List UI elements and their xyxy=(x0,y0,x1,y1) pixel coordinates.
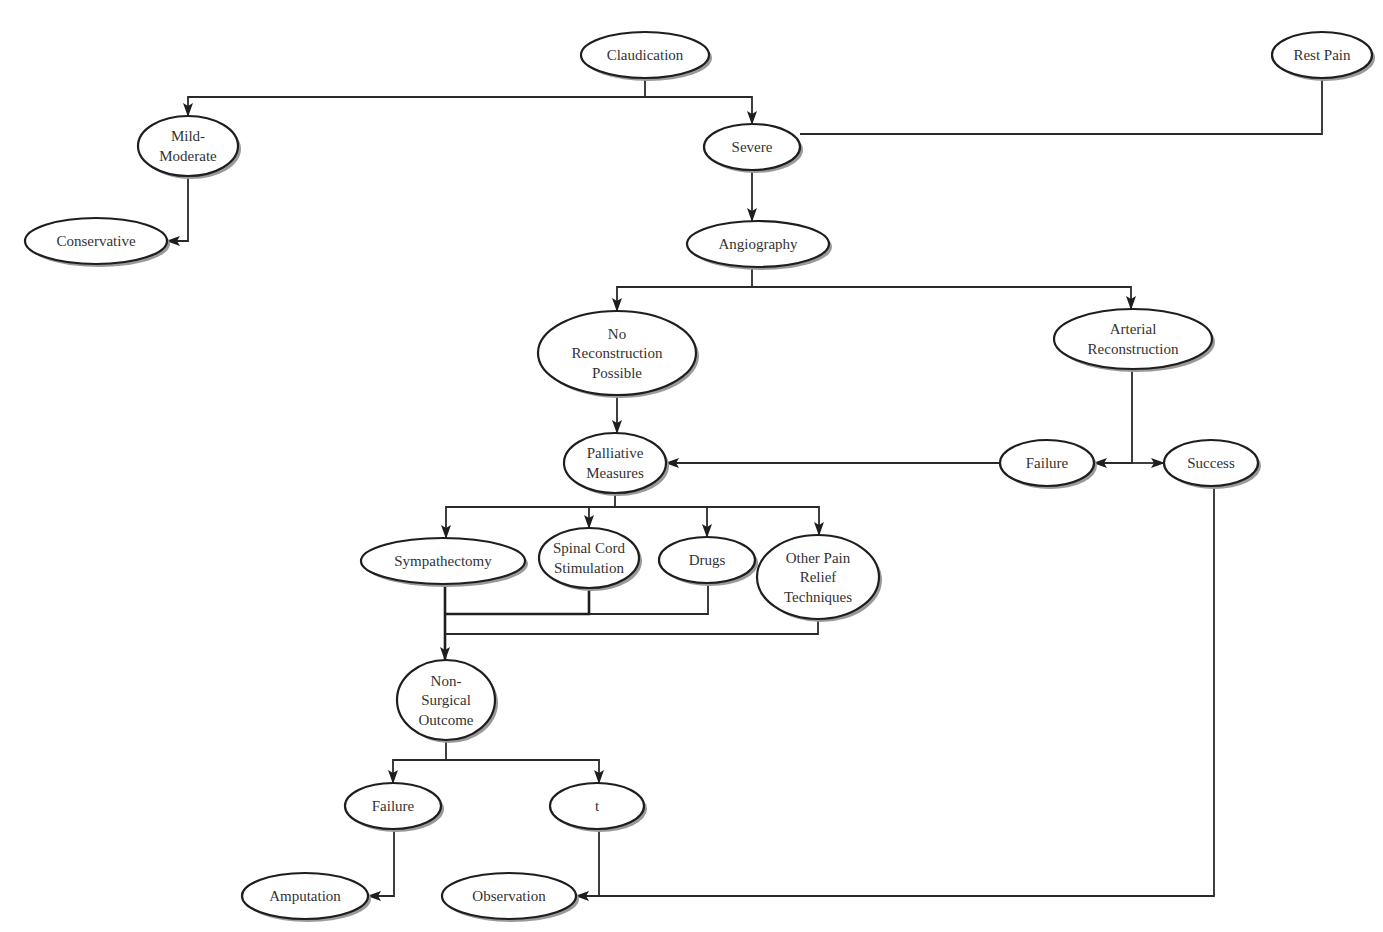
node-success: Success xyxy=(1164,440,1261,489)
node-severe: Severe xyxy=(704,124,803,173)
node-label: Techniques xyxy=(784,589,852,605)
node-label: Conservative xyxy=(56,233,135,249)
node-label: Sympathectomy xyxy=(394,553,492,569)
node-sympathectomy: Sympathectomy xyxy=(361,538,528,587)
node-amputation: Amputation xyxy=(242,873,371,922)
node-ellipse xyxy=(539,528,639,588)
node-label: Moderate xyxy=(159,148,217,164)
node-label: Angiography xyxy=(718,236,798,252)
node-mild-moderate: Mild-Moderate xyxy=(138,116,241,179)
edge-angiography-to-arterial-reconstruction xyxy=(752,287,1131,309)
edge-claudication-to-mild-moderate xyxy=(188,78,645,116)
node-label: Relief xyxy=(800,569,837,585)
node-label: Reconstruction xyxy=(1088,341,1179,357)
nodes-layer: ClaudicationRest PainMild-ModerateSevere… xyxy=(25,32,1375,922)
node-ellipse xyxy=(1054,309,1212,369)
edge-angiography-to-no-reconstruction xyxy=(617,267,752,311)
edge-spinal-cord-stimulation-to-non-surgical-outcome xyxy=(445,588,589,614)
edge-mild-moderate-to-conservative xyxy=(167,176,188,241)
node-other-pain-relief: Other PainReliefTechniques xyxy=(757,535,882,622)
node-label: Arterial xyxy=(1110,321,1157,337)
node-label: Stimulation xyxy=(554,560,625,576)
node-non-surgical-outcome: Non-SurgicalOutcome xyxy=(397,660,498,743)
edge-arterial-reconstruction-to-failure-reconstruction xyxy=(1094,369,1132,463)
node-label: Amputation xyxy=(269,888,341,904)
node-label: Observation xyxy=(472,888,546,904)
node-spinal-cord-stimulation: Spinal CordStimulation xyxy=(539,528,642,591)
node-label: Non- xyxy=(431,673,462,689)
edge-non-surgical-outcome-to-t-outcome xyxy=(446,760,599,783)
node-label: Other Pain xyxy=(786,550,851,566)
node-label: Claudication xyxy=(607,47,684,63)
node-rest-pain: Rest Pain xyxy=(1272,32,1375,81)
node-failure-reconstruction: Failure xyxy=(1000,440,1097,489)
edge-failure-outcome-to-amputation xyxy=(368,829,394,896)
node-label: Failure xyxy=(1026,455,1069,471)
edge-claudication-to-severe xyxy=(645,97,752,124)
node-claudication: Claudication xyxy=(581,32,712,81)
edge-other-pain-relief-to-non-surgical-outcome xyxy=(445,619,818,634)
node-label: Failure xyxy=(372,798,415,814)
node-t-outcome: t xyxy=(550,783,647,832)
node-label: Mild- xyxy=(171,128,205,144)
node-label: Outcome xyxy=(419,712,474,728)
node-label: Severe xyxy=(732,139,773,155)
node-label: Palliative xyxy=(587,445,644,461)
node-label: Rest Pain xyxy=(1293,47,1351,63)
node-arterial-reconstruction: ArterialReconstruction xyxy=(1054,309,1215,372)
node-conservative: Conservative xyxy=(25,218,170,267)
node-label: Measures xyxy=(586,465,644,481)
edge-palliative-measures-to-other-pain-relief xyxy=(707,507,819,535)
node-drugs: Drugs xyxy=(659,537,758,586)
node-label: No xyxy=(608,326,626,342)
node-ellipse xyxy=(564,433,666,493)
flowchart-canvas: ClaudicationRest PainMild-ModerateSevere… xyxy=(0,0,1383,932)
node-no-reconstruction: NoReconstructionPossible xyxy=(538,311,699,398)
node-label: Possible xyxy=(592,365,642,381)
node-failure-outcome: Failure xyxy=(345,783,444,832)
node-label: Surgical xyxy=(421,692,471,708)
edges-layer xyxy=(167,78,1322,896)
node-palliative-measures: PalliativeMeasures xyxy=(564,433,669,496)
node-observation: Observation xyxy=(442,873,579,922)
node-angiography: Angiography xyxy=(687,221,832,270)
node-label: Reconstruction xyxy=(572,345,663,361)
edge-palliative-measures-to-drugs xyxy=(615,507,707,537)
node-label: Spinal Cord xyxy=(553,540,626,556)
edge-t-outcome-to-observation xyxy=(576,829,599,896)
edge-non-surgical-outcome-to-failure-outcome xyxy=(393,740,446,783)
node-label: Success xyxy=(1187,455,1235,471)
node-label: Drugs xyxy=(689,552,726,568)
edge-rest-pain-to-severe xyxy=(800,78,1322,134)
node-ellipse xyxy=(138,116,238,176)
